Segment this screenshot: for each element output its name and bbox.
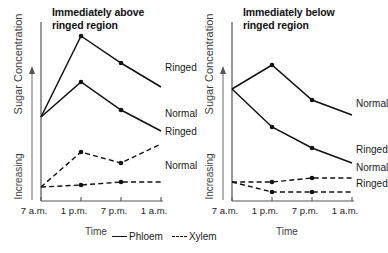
- solid-line-swatch-icon: [112, 236, 127, 237]
- legend-label-phloem: Phloem: [129, 231, 163, 242]
- legend-entry-phloem: Phloem: [112, 231, 163, 242]
- series-right-xylem-ringed: [232, 182, 352, 194]
- increasing-arrow-right: [220, 66, 226, 200]
- chart-panel-below-ringed-region: Immediately below ringed region Sugar Co…: [191, 0, 382, 253]
- series-right-phloem-ringed: [232, 89, 352, 163]
- series-left-xylem-ringed: [41, 144, 161, 187]
- x-tick-left-3: 1 a.m.: [134, 205, 174, 216]
- x-tick-right-3: 1 a.m.: [325, 205, 365, 216]
- series-label-right-4: Ringed: [356, 178, 388, 189]
- series-label-right-1: Normal: [356, 98, 388, 109]
- series-right-xylem-normal: [232, 176, 352, 185]
- chart-panel-above-ringed-region: Immediately above ringed region Sugar Co…: [0, 0, 191, 253]
- series-label-right-3: Normal: [356, 162, 388, 173]
- series-left-phloem-normal: [41, 80, 161, 131]
- increasing-arrow-left: [29, 66, 35, 200]
- x-axis-label-right: Time: [217, 226, 357, 237]
- x-tick-left-0: 7 a.m.: [14, 205, 54, 216]
- x-tick-labels-left: 7 a.m. 1 p.m. 7 p.m. 1 a.m.: [14, 205, 184, 216]
- x-tick-left-1: 1 p.m.: [54, 205, 94, 216]
- legend-entry-xylem: Xylem: [172, 231, 217, 242]
- x-tick-right-2: 7 p.m.: [285, 205, 325, 216]
- x-tick-right-1: 1 p.m.: [245, 205, 285, 216]
- legend-label-xylem: Xylem: [189, 231, 217, 242]
- series-right-phloem-normal: [232, 63, 352, 115]
- legend: Phloem Xylem: [112, 231, 217, 242]
- x-tick-labels-right: 7 a.m. 1 p.m. 7 p.m. 1 a.m.: [205, 205, 375, 216]
- dashed-line-swatch-icon: [172, 236, 187, 237]
- series-left-xylem-normal: [41, 180, 161, 188]
- series-left-phloem-ringed: [41, 34, 161, 117]
- x-tick-left-2: 7 p.m.: [94, 205, 134, 216]
- series-label-right-2: Ringed: [356, 144, 388, 155]
- x-tick-right-0: 7 a.m.: [205, 205, 245, 216]
